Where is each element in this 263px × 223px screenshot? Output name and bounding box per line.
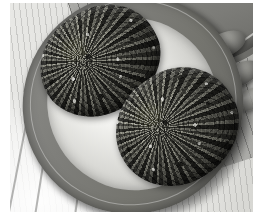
photo-frame (0, 0, 263, 223)
food-photograph (10, 3, 253, 212)
